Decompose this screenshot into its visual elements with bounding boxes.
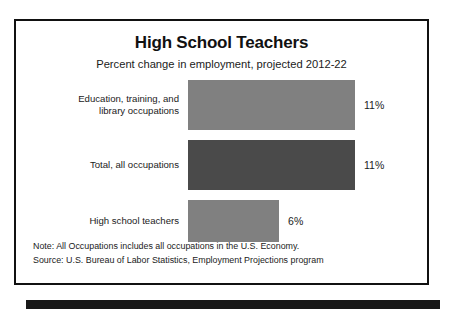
bar-chart-plot-area: Education, training, and library occupat… (16, 78, 427, 246)
category-label: Total, all occupations (16, 140, 188, 190)
bar-zone: 11% (188, 140, 427, 190)
bar-value-label: 11% (364, 99, 384, 111)
bar-value-label: 11% (364, 159, 384, 171)
chart-row: Total, all occupations 11% (16, 140, 427, 190)
bar (188, 80, 355, 130)
bar (188, 140, 355, 190)
bar-value-label: 6% (288, 215, 303, 227)
chart-title: High School Teachers (16, 34, 427, 53)
bar-zone: 6% (188, 200, 427, 242)
category-label-line: library occupations (99, 105, 179, 117)
chart-footnotes: Note: All Occupations includes all occup… (33, 240, 324, 268)
footnote-note: Note: All Occupations includes all occup… (33, 240, 324, 254)
category-label: High school teachers (16, 200, 188, 242)
footnote-source: Source: U.S. Bureau of Labor Statistics,… (33, 254, 324, 268)
category-label-line: High school teachers (89, 215, 179, 227)
category-label: Education, training, and library occupat… (16, 80, 188, 130)
bottom-accent-strip (26, 300, 440, 309)
category-label-line: Total, all occupations (90, 159, 179, 171)
bar-zone: 11% (188, 80, 427, 130)
chart-row: Education, training, and library occupat… (16, 80, 427, 130)
chart-row: High school teachers 6% (16, 200, 427, 242)
chart-card: High School Teachers Percent change in e… (14, 19, 429, 285)
bar (188, 200, 279, 242)
chart-subtitle: Percent change in employment, projected … (16, 58, 427, 71)
category-label-line: Education, training, and (78, 93, 179, 105)
